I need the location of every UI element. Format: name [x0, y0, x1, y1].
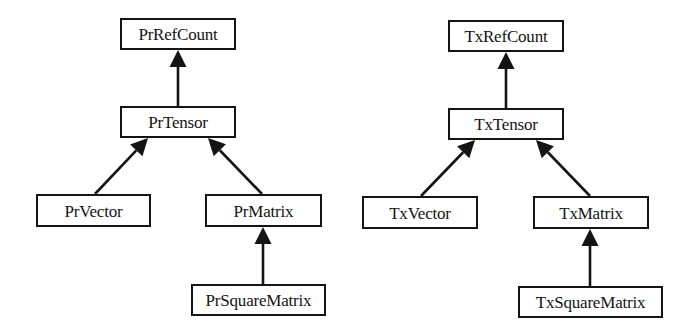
class-box-txvector: TxVector: [362, 196, 478, 229]
class-box-txsquarematrix: TxSquareMatrix: [518, 286, 663, 318]
class-label: PrMatrix: [234, 202, 294, 220]
inheritance-arrow-txmatrix-to-txtensor: [536, 140, 590, 196]
inheritance-arrow-txsquarematrix-to-txmatrix: [582, 229, 599, 286]
class-box-prmatrix: PrMatrix: [205, 194, 322, 227]
arrowhead-icon: [170, 50, 187, 67]
class-label: TxVector: [389, 204, 451, 222]
class-box-txtensor: TxTensor: [448, 108, 564, 140]
class-box-txmatrix: TxMatrix: [533, 196, 649, 229]
inheritance-edges: [95, 50, 599, 286]
class-box-prvector: PrVector: [36, 194, 151, 227]
class-label: TxTensor: [474, 115, 537, 133]
inheritance-arrow-prtensor-to-prrefcount: [170, 50, 187, 106]
inheritance-arrow-txvector-to-txtensor: [421, 140, 475, 196]
arrowhead-icon: [582, 229, 599, 246]
arrowhead-icon: [498, 52, 515, 69]
class-label: PrTensor: [148, 113, 208, 131]
class-label: TxRefCount: [465, 27, 548, 45]
class-box-prsquarematrix: PrSquareMatrix: [191, 284, 326, 316]
class-box-txrefcount: TxRefCount: [448, 20, 564, 52]
class-label: TxSquareMatrix: [536, 293, 646, 311]
edge-line: [95, 150, 136, 194]
edge-line: [421, 152, 463, 196]
class-label: PrRefCount: [138, 25, 217, 43]
inheritance-arrow-txtensor-to-txrefcount: [498, 52, 515, 108]
arrowhead-icon: [255, 227, 272, 244]
class-label: PrSquareMatrix: [206, 291, 312, 309]
class-label: TxMatrix: [559, 204, 623, 222]
class-label: PrVector: [65, 202, 123, 220]
class-box-prrefcount: PrRefCount: [120, 18, 236, 50]
class-box-prtensor: PrTensor: [120, 106, 236, 138]
inheritance-arrow-prsquarematrix-to-prmatrix: [255, 227, 272, 284]
edge-line: [220, 150, 262, 194]
edge-line: [548, 152, 590, 196]
inheritance-arrow-prmatrix-to-prtensor: [208, 138, 262, 194]
inheritance-arrow-prvector-to-prtensor: [95, 138, 148, 194]
